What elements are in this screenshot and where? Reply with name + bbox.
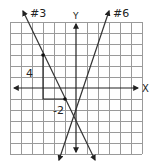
point-b-icon: [63, 97, 67, 101]
point-a-icon: [41, 53, 45, 57]
line-6-label: #6: [113, 7, 129, 20]
run-label: -2: [53, 104, 64, 117]
x-axis-label: X: [142, 83, 149, 94]
coordinate-graph: X Y 4 -2 #3 #6: [0, 0, 152, 163]
rise-label: 4: [26, 67, 33, 80]
y-axis-label: Y: [72, 11, 79, 21]
line-3-label: #3: [30, 7, 46, 20]
